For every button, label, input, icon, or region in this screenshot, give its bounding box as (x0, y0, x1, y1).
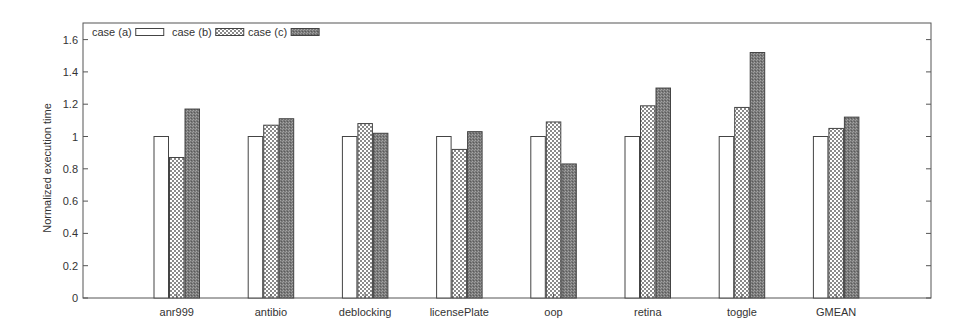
y-tick-label: 1 (72, 131, 78, 143)
bar-case-b (641, 106, 656, 298)
legend-swatch (136, 29, 164, 36)
bar-case-c (185, 109, 200, 298)
legend: case (a)case (b)case (c) (92, 26, 319, 38)
bar-case-a (437, 137, 452, 299)
y-tick-label: 1.6 (63, 34, 78, 46)
bar-case-a (154, 137, 169, 299)
bar-case-b (829, 128, 844, 298)
bar-group-GMEAN (813, 117, 859, 298)
bar-case-a (719, 137, 734, 299)
bar-case-c (373, 133, 388, 298)
legend-swatch (216, 29, 244, 36)
bar-case-c (750, 53, 765, 298)
x-tick-label: deblocking (339, 306, 392, 318)
y-tick-label: 0.8 (63, 163, 78, 175)
legend-label: case (b) (172, 26, 212, 38)
bar-case-a (342, 137, 357, 299)
y-tick-label: 1.4 (63, 66, 78, 78)
bar-group-licensePlate (437, 132, 483, 298)
bar-case-b (358, 124, 373, 298)
bar-case-b (170, 157, 185, 298)
bar-case-c (279, 119, 294, 298)
bar-chart: 00.20.40.60.811.21.41.6 anr999antibiodeb… (0, 0, 967, 328)
x-tick-label: GMEAN (816, 306, 856, 318)
y-tick-label: 0.4 (63, 227, 78, 239)
y-axis-label: Normalized execution time (41, 103, 53, 233)
bar-group-retina (625, 88, 671, 298)
y-tick-label: 0.6 (63, 195, 78, 207)
plot-frame (83, 23, 931, 298)
legend-label: case (c) (248, 26, 287, 38)
x-tick-label: anr999 (160, 306, 194, 318)
bar-group-toggle (719, 53, 765, 298)
bar-case-c (562, 164, 577, 298)
bar-group-deblocking (342, 124, 388, 298)
y-tick-label: 0.2 (63, 260, 78, 272)
bar-case-b (546, 122, 561, 298)
x-tick-label: retina (634, 306, 662, 318)
bar-case-a (531, 137, 546, 299)
bar-case-a (248, 137, 263, 299)
bar-case-b (735, 107, 750, 298)
bar-case-c (844, 117, 859, 298)
y-tick-label: 0 (72, 292, 78, 304)
bar-case-c (656, 88, 671, 298)
bar-case-a (813, 137, 828, 299)
x-tick-label: toggle (727, 306, 757, 318)
legend-label: case (a) (92, 26, 132, 38)
bar-group-oop (531, 122, 577, 298)
bar-case-c (468, 132, 483, 298)
x-tick-label: oop (544, 306, 562, 318)
bar-group-antibio (248, 119, 294, 298)
legend-swatch (291, 29, 319, 36)
bar-case-b (264, 125, 279, 298)
bar-case-a (625, 137, 640, 299)
bar-case-b (452, 149, 467, 298)
bar-group-anr999 (154, 109, 200, 298)
bars (154, 53, 859, 298)
y-tick-label: 1.2 (63, 98, 78, 110)
x-tick-label: antibio (255, 306, 287, 318)
x-tick-label: licensePlate (430, 306, 489, 318)
